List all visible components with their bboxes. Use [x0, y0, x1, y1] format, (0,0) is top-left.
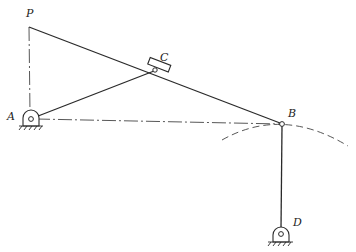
arc-path-of-b [222, 124, 348, 146]
fixed-support-a [19, 110, 43, 130]
label-c: C [160, 51, 169, 64]
link-ac [33, 71, 154, 118]
fixed-support-d [268, 227, 293, 246]
construction-line-ab [36, 119, 281, 124]
label-b: B [287, 107, 296, 120]
joint-b [280, 122, 285, 127]
link-pb [29, 27, 280, 123]
label-d: D [292, 216, 302, 229]
label-p: P [25, 7, 34, 20]
construction-line-pa [29, 27, 30, 113]
link-bd [281, 126, 282, 229]
linkage-diagram: P A C B D [0, 0, 356, 252]
joint-c [153, 68, 157, 72]
label-a: A [6, 110, 15, 123]
